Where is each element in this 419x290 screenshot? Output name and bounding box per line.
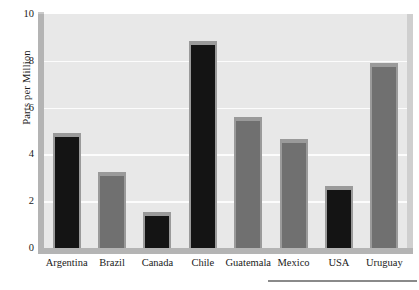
bar-fill bbox=[53, 133, 81, 248]
bar-fill bbox=[143, 212, 171, 248]
bar-left-edge bbox=[98, 172, 100, 248]
bar-fill bbox=[189, 41, 217, 248]
bar-fill bbox=[280, 139, 308, 248]
bar-right-edge bbox=[306, 139, 308, 248]
bar-top-cap bbox=[370, 63, 398, 67]
y-tick-0: 0 bbox=[8, 243, 34, 253]
y-tick-10: 10 bbox=[8, 9, 34, 19]
bar-left-edge bbox=[280, 139, 282, 248]
x-tick-chile: Chile bbox=[180, 256, 225, 270]
bar-top-cap bbox=[98, 172, 126, 176]
x-tick-brazil: Brazil bbox=[89, 256, 134, 270]
x-axis-tick-labels: ArgentinaBrazilCanadaChileGuatemalaMexic… bbox=[44, 256, 407, 274]
bar-chart-figure: Parts per Million 0246810 ArgentinaBrazi… bbox=[0, 0, 419, 290]
bar-top-cap bbox=[280, 139, 308, 143]
y-axis-tick-labels: 0246810 bbox=[8, 0, 34, 290]
bar-left-edge bbox=[189, 41, 191, 248]
bar-right-edge bbox=[79, 133, 81, 248]
bar-left-edge bbox=[143, 212, 145, 248]
bar-top-cap bbox=[189, 41, 217, 45]
bar-argentina[interactable] bbox=[53, 133, 81, 248]
bar-uruguay[interactable] bbox=[370, 63, 398, 248]
y-tick-4: 4 bbox=[8, 149, 34, 159]
bar-guatemala[interactable] bbox=[234, 117, 262, 248]
bar-top-cap bbox=[143, 212, 171, 216]
bar-top-cap bbox=[325, 186, 353, 190]
gridline-6 bbox=[44, 108, 407, 110]
chart-floor bbox=[38, 248, 413, 254]
bar-right-edge bbox=[396, 63, 398, 248]
bar-brazil[interactable] bbox=[98, 172, 126, 248]
x-tick-canada: Canada bbox=[135, 256, 180, 270]
y-tick-2: 2 bbox=[8, 196, 34, 206]
bar-fill bbox=[370, 63, 398, 248]
x-tick-usa: USA bbox=[316, 256, 361, 270]
footer-rule bbox=[268, 280, 417, 282]
bar-right-edge bbox=[215, 41, 217, 248]
bar-fill bbox=[234, 117, 262, 248]
bar-right-edge bbox=[351, 186, 353, 248]
bar-left-edge bbox=[370, 63, 372, 248]
y-tick-6: 6 bbox=[8, 103, 34, 113]
bar-left-edge bbox=[234, 117, 236, 248]
bar-fill bbox=[325, 186, 353, 248]
bar-right-edge bbox=[260, 117, 262, 248]
gridline-4 bbox=[44, 154, 407, 156]
x-tick-uruguay: Uruguay bbox=[362, 256, 407, 270]
bar-left-edge bbox=[325, 186, 327, 248]
y-tick-8: 8 bbox=[8, 56, 34, 66]
x-tick-argentina: Argentina bbox=[44, 256, 89, 270]
bar-canada[interactable] bbox=[143, 212, 171, 248]
bar-right-edge bbox=[169, 212, 171, 248]
bar-chile[interactable] bbox=[189, 41, 217, 248]
bar-left-edge bbox=[53, 133, 55, 248]
x-tick-mexico: Mexico bbox=[271, 256, 316, 270]
bar-mexico[interactable] bbox=[280, 139, 308, 248]
plot-area bbox=[44, 14, 407, 248]
bar-fill bbox=[98, 172, 126, 248]
chart-right-wall bbox=[407, 14, 413, 254]
bar-top-cap bbox=[234, 117, 262, 121]
gridline-8 bbox=[44, 61, 407, 63]
bar-usa[interactable] bbox=[325, 186, 353, 248]
x-tick-guatemala: Guatemala bbox=[226, 256, 271, 270]
bar-top-cap bbox=[53, 133, 81, 137]
bar-right-edge bbox=[124, 172, 126, 248]
